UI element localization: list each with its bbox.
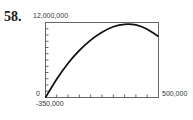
plot-frame (46, 23, 159, 98)
plot (0, 0, 193, 120)
axis-ticks (46, 29, 148, 98)
data-curve (46, 24, 159, 97)
